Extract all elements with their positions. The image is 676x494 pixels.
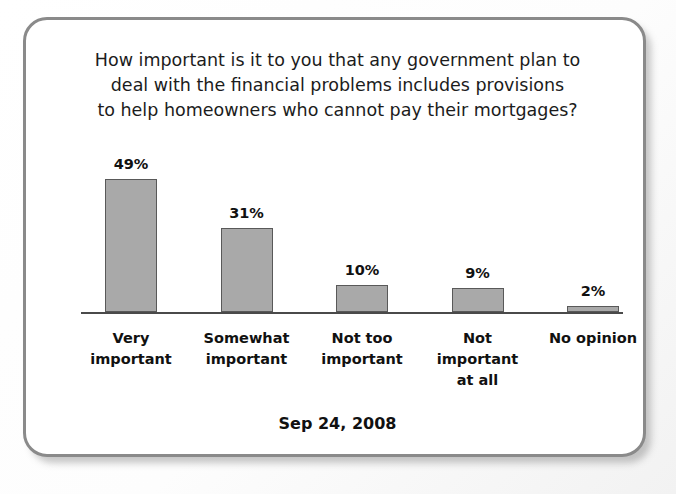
bar-value-label-5: 2% (543, 283, 643, 299)
category-label-line: Somewhat (185, 328, 309, 349)
bar-1 (105, 179, 157, 312)
bar-2 (221, 228, 273, 312)
chart-screenshot: How important is it to you that any gove… (0, 0, 676, 494)
category-label-line: important (185, 349, 309, 370)
date-caption: Sep 24, 2008 (26, 414, 649, 433)
chart-card: How important is it to you that any gove… (23, 17, 646, 457)
category-label-3: Not tooimportant (300, 328, 424, 370)
category-label-line: No opinion (531, 328, 655, 349)
category-label-line: Not too (300, 328, 424, 349)
x-axis-line (81, 312, 623, 314)
bar-value-label-4: 9% (428, 265, 528, 281)
bar-value-label-2: 31% (197, 205, 297, 221)
bar-4 (452, 288, 504, 312)
bar-value-label-1: 49% (81, 156, 181, 172)
category-label-2: Somewhatimportant (185, 328, 309, 370)
category-label-line: at all (416, 370, 540, 391)
category-label-4: Notimportantat all (416, 328, 540, 391)
bar-5 (567, 306, 619, 312)
category-label-line: Not (416, 328, 540, 349)
category-label-line: important (69, 349, 193, 370)
bar-value-label-3: 10% (312, 262, 412, 278)
category-label-1: Veryimportant (69, 328, 193, 370)
bar-3 (336, 285, 388, 312)
category-label-line: Very (69, 328, 193, 349)
category-label-line: important (300, 349, 424, 370)
bar-chart-plot: 49%Veryimportant31%Somewhatimportant10%N… (26, 20, 649, 460)
category-label-5: No opinion (531, 328, 655, 349)
category-label-line: important (416, 349, 540, 370)
